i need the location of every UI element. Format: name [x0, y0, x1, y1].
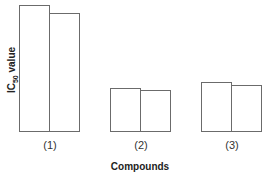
- bar-2-series-a: [110, 88, 141, 132]
- bar-3-series-a: [201, 82, 232, 132]
- bar-1-series-b: [49, 13, 80, 132]
- bar-1-series-a: [19, 5, 50, 132]
- bar-chart: IC50 value (1) (2) (3) Compounds: [0, 0, 270, 178]
- x-tick-2: (2): [134, 139, 147, 151]
- x-tick-3: (3): [225, 139, 238, 151]
- y-axis-label: IC50 value: [6, 47, 19, 93]
- x-axis-label: Compounds: [111, 161, 169, 172]
- bar-2-series-b: [140, 90, 171, 132]
- x-tick-1: (1): [43, 139, 56, 151]
- bar-3-series-b: [231, 85, 262, 132]
